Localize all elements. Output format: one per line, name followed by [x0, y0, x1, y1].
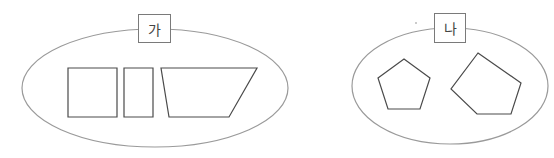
group-na-label-text: 나 [444, 18, 457, 38]
square-shape [68, 68, 117, 117]
trapezoid-shape [161, 68, 257, 117]
group-ga-label: 가 [138, 14, 171, 43]
irregular-pentagon-shape [451, 53, 521, 114]
diagram-canvas [0, 0, 554, 158]
group-ga-ellipse [22, 29, 288, 147]
group-na-label: 나 [434, 13, 466, 43]
rectangle-shape [124, 68, 153, 117]
group-na-ellipse [352, 28, 548, 144]
stray-dot [415, 22, 417, 24]
group-ga-label-text: 가 [148, 19, 161, 39]
regular-pentagon-shape [378, 59, 430, 109]
